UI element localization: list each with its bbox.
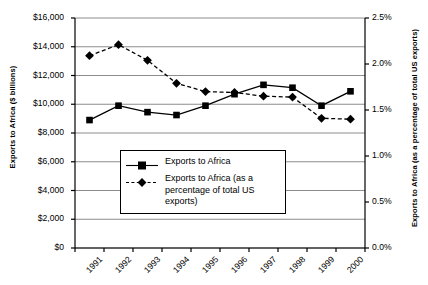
data-point-diamond — [172, 79, 181, 88]
data-point-diamond — [201, 87, 210, 96]
data-point-square — [144, 109, 151, 116]
data-point-square — [202, 102, 209, 109]
data-point-diamond — [317, 114, 326, 123]
legend-swatch-dashed-diamond-icon — [125, 174, 159, 185]
data-point-diamond — [346, 115, 355, 124]
data-point-square — [173, 112, 180, 119]
chart-legend: Exports to Africa Exports to Africa (as … — [120, 150, 286, 214]
data-point-diamond — [288, 93, 297, 102]
data-point-diamond — [259, 92, 268, 101]
legend-label-exports: Exports to Africa — [165, 156, 231, 168]
data-point-diamond — [114, 40, 123, 49]
series-line-0 — [90, 85, 351, 120]
data-point-diamond — [85, 51, 94, 60]
data-point-square — [260, 82, 267, 89]
legend-label-exports-percentage: Exports to Africa (as a percentage of to… — [165, 173, 281, 208]
data-point-square — [86, 117, 93, 124]
data-point-square — [347, 88, 354, 95]
data-point-square — [115, 102, 122, 109]
plot-area — [0, 0, 428, 285]
data-point-square — [289, 84, 296, 91]
legend-item-exports-percentage: Exports to Africa (as a percentage of to… — [125, 173, 281, 208]
legend-item-exports: Exports to Africa — [125, 156, 281, 168]
chart-container: Exports to Africa ($ billions) Exports t… — [0, 0, 428, 285]
data-point-square — [318, 102, 325, 109]
legend-swatch-solid-square-icon — [125, 157, 159, 168]
